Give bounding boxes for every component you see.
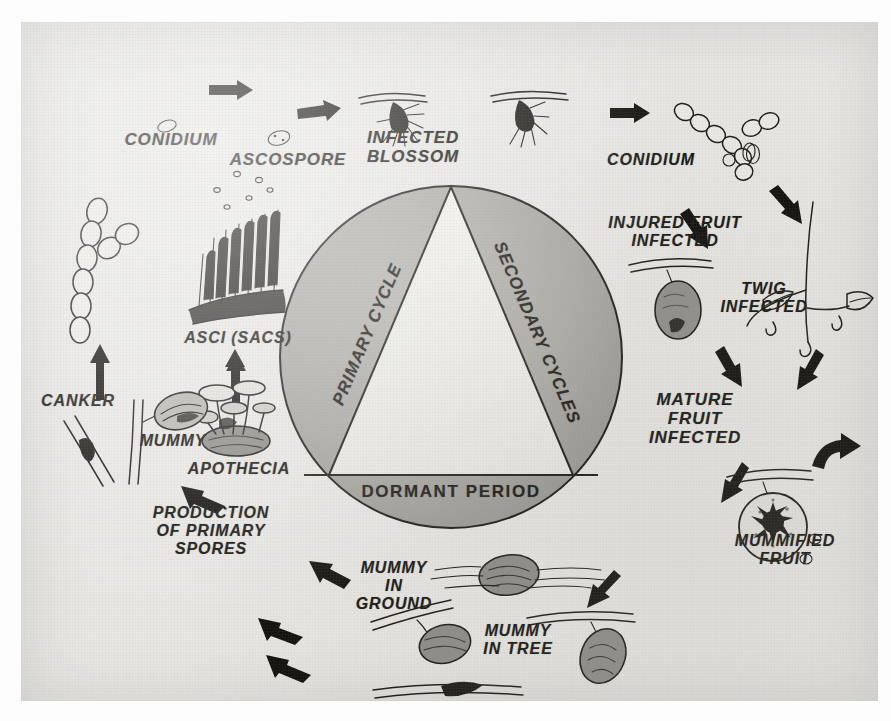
arrow-conidium-to-injured-fruit bbox=[769, 185, 802, 224]
canker-illustration bbox=[64, 416, 114, 486]
label-mummy-in-ground: MUMMY IN GROUND bbox=[339, 559, 449, 613]
conidial-chain-right-illustration bbox=[671, 100, 781, 183]
page-sheet: PRIMARY CYCLE SECONDARY CYCLES DORMANT P… bbox=[0, 0, 891, 721]
label-mummified-fruit: MUMMIFIED FRUIT bbox=[715, 532, 855, 568]
label-mummy: MUMMY bbox=[123, 432, 223, 450]
twig-canker-illustration bbox=[373, 682, 523, 698]
diagram-panel: PRIMARY CYCLE SECONDARY CYCLES DORMANT P… bbox=[21, 22, 878, 701]
label-production-of-primary-spores: PRODUCTION OF PRIMARY SPORES bbox=[131, 504, 291, 558]
conidial-chain-left-illustration bbox=[70, 196, 142, 343]
arrow-injured-to-mature bbox=[715, 346, 742, 387]
label-mummy-in-tree: MUMMY IN TREE bbox=[465, 622, 571, 658]
label-injured-fruit-infected: INJURED FRUIT INFECTED bbox=[595, 214, 755, 250]
arrow-blossom-to-conidium bbox=[610, 103, 650, 123]
label-mature-fruit-infected: MATURE FRUIT INFECTED bbox=[630, 390, 760, 447]
label-infected-blossom: INFECTED BLOSSOM bbox=[349, 128, 477, 166]
arrow-bottom-to-spores-c bbox=[266, 655, 311, 683]
asci-illustration bbox=[189, 171, 286, 324]
label-twig-infected: TWIG INFECTED bbox=[709, 280, 819, 316]
label-canker: CANKER bbox=[27, 392, 129, 410]
label-conidium-left: CONIDIUM bbox=[71, 130, 271, 149]
illustration-layer bbox=[21, 22, 878, 701]
arrow-secondary-recycle bbox=[812, 433, 861, 469]
arrow-bottom-to-spores-b bbox=[258, 618, 303, 645]
arrow-mummified-to-mummy-tree bbox=[587, 570, 621, 608]
label-asci-sacs: ASCI (SACS) bbox=[163, 329, 313, 347]
arrow-ascospore-to-blossom bbox=[297, 100, 341, 121]
label-apothecia: APOTHECIA bbox=[169, 460, 309, 478]
infected-blossom-illustration-b bbox=[491, 91, 568, 147]
injured-fruit-illustration bbox=[629, 259, 713, 339]
label-conidium-right: CONIDIUM bbox=[581, 151, 721, 169]
arrow-conidium-to-ascospore bbox=[209, 80, 253, 100]
mummy-in-ground-illustration bbox=[431, 551, 605, 599]
